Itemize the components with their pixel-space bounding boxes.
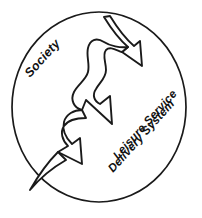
diagram-canvas: Society Leisure Service Delivery System [0, 0, 202, 218]
label-society: Society [22, 36, 64, 80]
upper-arrow-tail-and-head [104, 16, 142, 66]
label-delivery-line2: Delivery System [105, 97, 177, 175]
figure-root: Society Leisure Service Delivery System [0, 0, 202, 218]
